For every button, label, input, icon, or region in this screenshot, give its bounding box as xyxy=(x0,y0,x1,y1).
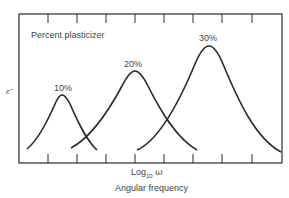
x-tick-log: Log xyxy=(131,167,146,177)
x-axis-label: Angular frequency xyxy=(115,183,188,193)
top-ticks xyxy=(48,14,252,23)
peak-label-10: 10% xyxy=(54,83,72,93)
curve-20-percent xyxy=(71,71,197,150)
peak-label-20: 20% xyxy=(124,59,142,69)
curve-10-percent xyxy=(27,95,97,150)
y-axis-label: ε″ xyxy=(6,87,13,96)
curves xyxy=(27,46,281,152)
legend-title: Percent plasticizer xyxy=(31,30,105,40)
x-tick-base: 10 xyxy=(146,173,153,179)
x-tick-label: Log10 ω xyxy=(131,167,163,179)
peak-label-30: 30% xyxy=(199,33,217,43)
bottom-ticks xyxy=(48,154,252,163)
curve-30-percent xyxy=(137,46,281,152)
x-tick-omega: ω xyxy=(155,167,162,177)
